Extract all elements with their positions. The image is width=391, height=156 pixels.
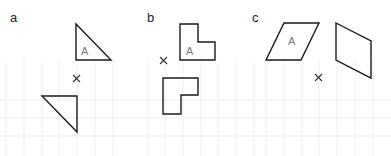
l-shape-rotated xyxy=(163,78,198,114)
cross-icon-a xyxy=(73,75,80,82)
cross-icon-b xyxy=(160,57,167,64)
shape-label-b: A xyxy=(186,45,193,57)
triangle-rotated xyxy=(42,96,77,132)
shape-label-a: A xyxy=(81,45,88,57)
parallelogram-rotated xyxy=(336,23,371,78)
figure-shapes xyxy=(0,0,391,156)
cross-icon-c xyxy=(315,74,322,81)
shape-label-c: A xyxy=(288,35,295,47)
